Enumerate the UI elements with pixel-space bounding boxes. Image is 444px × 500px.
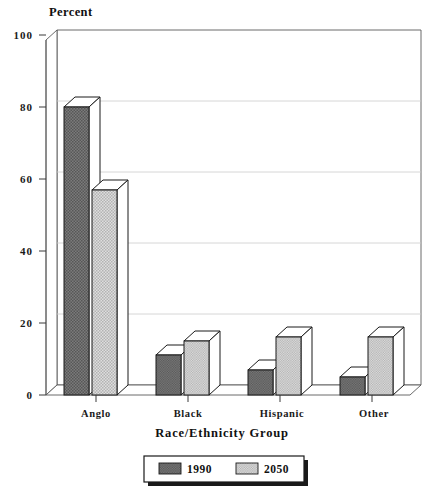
x-axis-labels: Anglo Black Hispanic Other (81, 408, 389, 419)
light-hatch-swatch (236, 463, 258, 474)
bar-black-2050[interactable] (184, 331, 220, 395)
y-tick-label-100: 100 (14, 29, 34, 41)
x-label-anglo: Anglo (81, 408, 111, 419)
bar-anglo-2050[interactable] (92, 180, 128, 395)
bar-other-2050[interactable] (368, 327, 404, 395)
y-tick-label-20: 20 (20, 317, 33, 329)
legend-label-2050: 2050 (264, 463, 289, 475)
chart-container: Percent 100 80 (0, 0, 444, 500)
x-label-hispanic: Hispanic (260, 408, 304, 419)
x-label-other: Other (359, 408, 389, 419)
legend-label-1990: 1990 (187, 463, 212, 475)
y-tick-label-0: 0 (27, 389, 34, 401)
y-axis-title: Percent (49, 5, 93, 19)
y-tick-label-40: 40 (20, 245, 33, 257)
y-tick-label-60: 60 (20, 173, 33, 185)
legend: 1990 2050 (144, 456, 308, 486)
x-axis-title: Race/Ethnicity Group (155, 426, 288, 440)
dark-hatch-swatch (159, 463, 181, 474)
bar-hispanic-2050[interactable] (276, 327, 312, 395)
y-axis: 100 80 60 40 20 0 (14, 29, 47, 401)
bar-chart-svg: Percent 100 80 (0, 0, 444, 500)
x-axis-ticks (96, 395, 372, 402)
y-tick-label-80: 80 (20, 101, 33, 113)
x-label-black: Black (174, 408, 203, 419)
